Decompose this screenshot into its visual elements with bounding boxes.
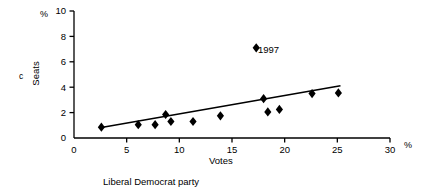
data-point-marker xyxy=(335,88,342,97)
data-point-marker xyxy=(98,123,105,132)
y-tick-label: 8 xyxy=(61,31,66,42)
x-tick-label: 0 xyxy=(71,144,76,155)
x-tick-label: 30 xyxy=(385,144,396,155)
data-point-marker xyxy=(162,110,169,119)
annotation-marker xyxy=(253,43,260,52)
y-tick-label: 4 xyxy=(61,82,66,93)
y-tick-label: 0 xyxy=(61,132,66,143)
regression-line xyxy=(101,86,340,128)
x-tick-label: 10 xyxy=(174,144,185,155)
data-points xyxy=(98,88,342,131)
data-point-marker xyxy=(260,94,267,103)
axes xyxy=(70,11,391,143)
y-tick-label: 6 xyxy=(61,56,66,67)
data-point-marker xyxy=(167,117,174,126)
data-point-marker xyxy=(189,117,196,126)
y-tick-label: 10 xyxy=(55,5,66,16)
data-point-marker xyxy=(276,105,283,114)
trend-line xyxy=(101,86,340,128)
x-tick-label: 15 xyxy=(227,144,238,155)
x-tick-label: 25 xyxy=(332,144,343,155)
tick-labels: 0246810051015202530 xyxy=(55,5,395,155)
data-point-marker xyxy=(217,111,224,120)
y-tick-label: 2 xyxy=(61,107,66,118)
x-tick-label: 5 xyxy=(124,144,129,155)
x-tick-label: 20 xyxy=(279,144,290,155)
annotation-markers xyxy=(253,43,260,52)
data-point-marker xyxy=(264,107,271,116)
plot-area: 0246810051015202530 xyxy=(0,0,438,192)
chart-figure: % c Seats Votes % 1997 Liberal Democrat … xyxy=(0,0,438,192)
data-point-marker xyxy=(152,120,159,129)
